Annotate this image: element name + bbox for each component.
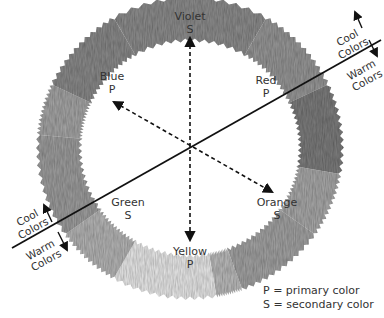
label-red: RedP (256, 74, 277, 100)
legend: P = primary color S = secondary color (263, 284, 374, 312)
cool-arrow-right (355, 12, 362, 28)
label-blue: BlueP (100, 70, 125, 96)
warm-arrow-left (58, 232, 67, 250)
warm-colors-label-left: WarmColors (23, 236, 63, 273)
complement-arrows (114, 38, 272, 240)
cool-colors-label-right: CoolColors (330, 24, 370, 61)
warm-colors-label-right: WarmColors (344, 56, 384, 93)
label-green: GreenS (111, 196, 144, 222)
legend-primary: P = primary color (263, 284, 374, 298)
cool-colors-label-left: CoolColors (10, 204, 50, 241)
color-wheel-diagram: CoolColorsWarmColorsCoolColorsWarmColors… (0, 0, 384, 318)
legend-secondary: S = secondary color (263, 298, 374, 312)
